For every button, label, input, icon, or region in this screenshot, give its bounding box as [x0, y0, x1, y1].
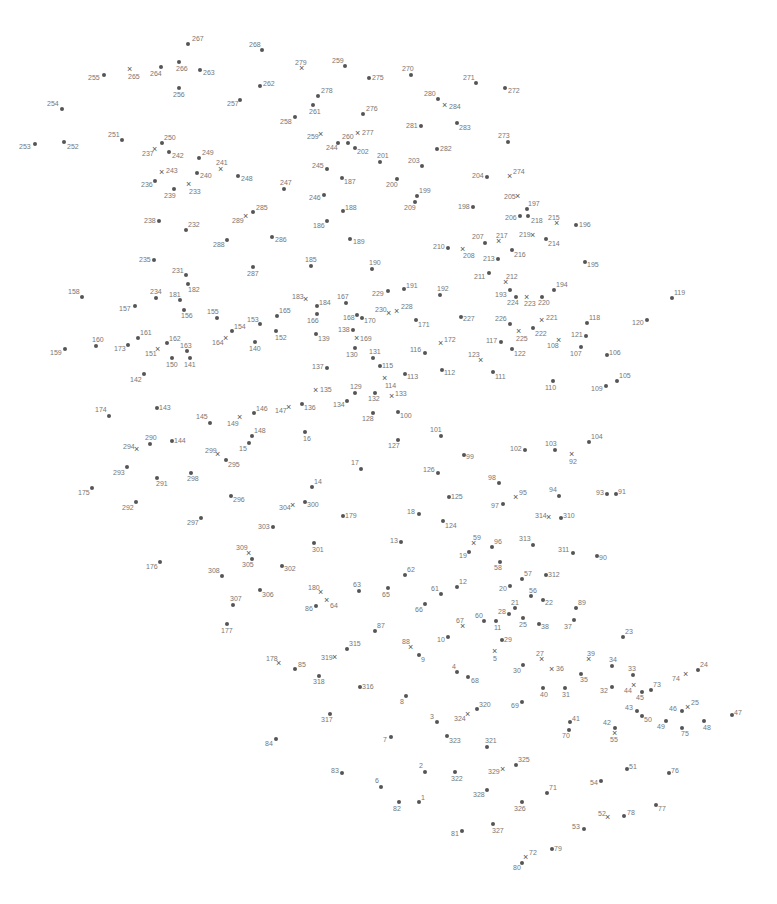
- point-label: 253: [19, 143, 31, 151]
- point-label: 47: [734, 709, 742, 717]
- point-label: 205: [504, 193, 516, 201]
- dot-marker-icon: [62, 140, 66, 144]
- dot-marker-icon: [404, 694, 408, 698]
- point-label: 70: [562, 732, 570, 740]
- cross-marker-icon: ×: [389, 391, 394, 401]
- dot-marker-icon: [521, 616, 525, 620]
- dot-marker-icon: [325, 167, 329, 171]
- point-label: 206: [505, 214, 517, 222]
- cross-marker-icon: ×: [507, 171, 512, 181]
- point-label: 54: [590, 779, 598, 787]
- point-label: 137: [312, 363, 324, 371]
- point-label: 278: [321, 87, 333, 95]
- point-label: 246: [309, 194, 321, 202]
- dot-marker-icon: [526, 214, 530, 218]
- dot-marker-icon: [584, 334, 588, 338]
- point-label: 59: [473, 534, 481, 542]
- dot-marker-icon: [258, 84, 262, 88]
- dot-marker-icon: [311, 103, 315, 107]
- dot-marker-icon: [438, 293, 442, 297]
- point-label: 323: [449, 737, 461, 745]
- point-label: 29: [504, 636, 512, 644]
- dot-marker-icon: [198, 68, 202, 72]
- cross-marker-icon: ×: [159, 167, 164, 177]
- point-label: 19: [459, 552, 467, 560]
- point-label: 101: [430, 426, 442, 434]
- point-label: 87: [377, 622, 385, 630]
- dot-marker-icon: [133, 304, 137, 308]
- dot-marker-icon: [702, 719, 706, 723]
- point-label: 34: [609, 656, 617, 664]
- dot-marker-icon: [435, 720, 439, 724]
- point-label: 306: [262, 591, 274, 599]
- point-label: 4: [452, 663, 456, 671]
- dot-marker-icon: [503, 86, 507, 90]
- point-label: 139: [318, 335, 330, 343]
- dot-marker-icon: [215, 316, 219, 320]
- point-label: 240: [200, 172, 212, 180]
- dot-marker-icon: [508, 288, 512, 292]
- dot-marker-icon: [270, 235, 274, 239]
- point-label: 282: [440, 145, 452, 153]
- point-label: 79: [554, 845, 562, 853]
- point-label: 102: [510, 445, 522, 453]
- point-label: 129: [350, 383, 362, 391]
- dot-marker-icon: [274, 329, 278, 333]
- dot-marker-icon: [120, 138, 124, 142]
- point-label: 39: [587, 650, 595, 658]
- point-label: 115: [382, 362, 393, 370]
- point-label: 49: [657, 723, 665, 731]
- point-label: 228: [401, 303, 413, 311]
- dot-marker-icon: [485, 175, 489, 179]
- point-label: 124: [445, 522, 457, 530]
- dot-marker-icon: [188, 356, 192, 360]
- point-label: 14: [314, 478, 322, 486]
- dot-marker-icon: [184, 273, 188, 277]
- point-label: 247: [280, 179, 292, 187]
- point-label: 155: [207, 308, 219, 316]
- point-label: 52: [598, 810, 606, 818]
- point-label: 147: [275, 407, 287, 415]
- point-label: 311: [558, 546, 569, 554]
- dot-marker-icon: [177, 60, 181, 64]
- cross-marker-icon: ×: [355, 128, 360, 138]
- point-label: 12: [459, 578, 467, 586]
- point-label: 118: [589, 314, 600, 322]
- point-label: 138: [338, 326, 350, 334]
- point-label: 224: [507, 299, 519, 307]
- point-label: 104: [591, 433, 603, 441]
- point-label: 203: [408, 157, 420, 165]
- dot-marker-icon: [419, 124, 423, 128]
- point-label: 16: [303, 435, 311, 443]
- point-label: 84: [265, 740, 273, 748]
- point-label: 30: [513, 667, 521, 675]
- dot-marker-icon: [439, 434, 443, 438]
- point-label: 222: [535, 330, 547, 338]
- dot-marker-icon: [220, 574, 224, 578]
- point-label: 116: [410, 346, 421, 354]
- point-label: 305: [242, 561, 254, 569]
- point-label: 6: [375, 777, 379, 785]
- point-label: 280: [424, 90, 436, 98]
- dot-marker-icon: [460, 829, 464, 833]
- point-label: 28: [498, 608, 506, 616]
- dot-marker-icon: [499, 340, 503, 344]
- point-label: 45: [636, 694, 644, 702]
- point-label: 288: [213, 241, 225, 249]
- dot-marker-icon: [557, 494, 561, 498]
- dot-marker-icon: [572, 618, 576, 622]
- point-label: 229: [372, 290, 384, 298]
- point-label: 167: [337, 293, 349, 301]
- dot-marker-icon: [582, 827, 586, 831]
- point-label: 150: [166, 361, 178, 369]
- point-label: 156: [181, 312, 193, 320]
- point-label: 317: [321, 716, 333, 724]
- point-label: 131: [369, 348, 381, 356]
- dot-marker-icon: [195, 171, 199, 175]
- point-label: 60: [475, 612, 483, 620]
- dot-marker-icon: [491, 822, 495, 826]
- point-label: 273: [498, 132, 510, 140]
- point-label: 106: [609, 349, 621, 357]
- dot-marker-icon: [125, 465, 129, 469]
- dot-marker-icon: [208, 421, 212, 425]
